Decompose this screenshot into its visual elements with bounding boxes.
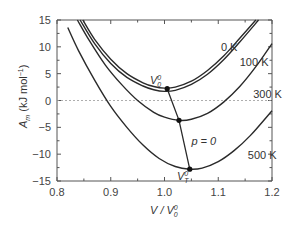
- curve-label: 100 K: [240, 56, 269, 68]
- equilibrium-path-p0: [165, 86, 193, 172]
- y-tick-label: 0: [45, 95, 51, 107]
- y-tick-label: −10: [32, 148, 51, 160]
- y-tick-label: 10: [39, 41, 51, 53]
- y-axis-title: Am (kJ mol−1): [17, 65, 31, 129]
- curve-label: 0 K: [221, 41, 238, 53]
- x-axis-title: V / V00: [150, 204, 178, 218]
- x-tick-label: 1.2: [264, 186, 279, 198]
- y-tick-label: −5: [38, 121, 51, 133]
- x-tick-label: 0.8: [49, 186, 64, 198]
- y-tick-label: −15: [32, 175, 51, 187]
- vt0-label: V0T: [177, 170, 189, 184]
- equilibrium-point: [176, 118, 181, 123]
- equilibrium-point: [165, 86, 170, 91]
- curve-label: p = 0: [190, 135, 217, 147]
- tick-labels: 0.80.91.01.11.2151050−5−10−15: [32, 14, 279, 198]
- y-tick-label: 5: [45, 68, 51, 80]
- curve-label: 300 K: [253, 88, 282, 100]
- free-energy-chart: 0.80.91.01.11.2151050−5−10−15 0 K100 K30…: [0, 0, 291, 226]
- x-tick-label: 1.0: [157, 186, 172, 198]
- curve-labels: 0 K100 K300 K500 Kp = 0: [190, 41, 282, 161]
- v00-label: V00: [150, 74, 161, 88]
- x-tick-label: 1.1: [211, 186, 226, 198]
- y-tick-label: 15: [39, 14, 51, 26]
- x-tick-label: 0.9: [103, 186, 118, 198]
- curve-label: 500 K: [248, 149, 277, 161]
